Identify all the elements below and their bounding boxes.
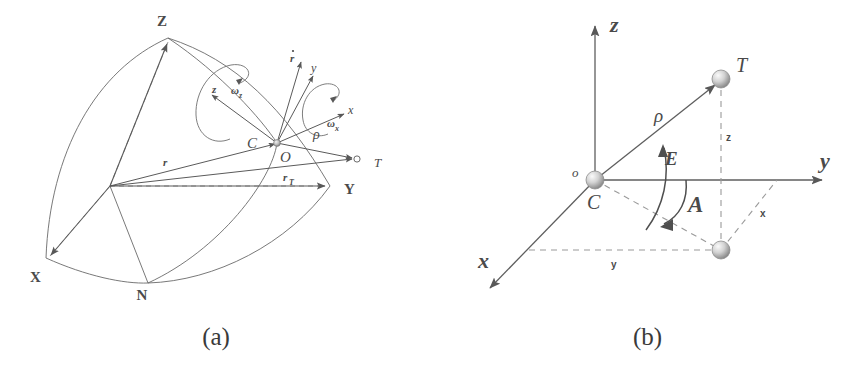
svg-text:r: r: [283, 171, 288, 183]
label-vector-r: r: [163, 156, 168, 168]
omega-x-loop-arrowhead: [330, 96, 337, 103]
svg-text:z: z: [238, 91, 243, 100]
point-O-marker: [274, 140, 281, 147]
label-point-O: O: [280, 149, 291, 165]
vector-rT-line: [110, 159, 352, 186]
axis-Z-arrow: [110, 44, 167, 186]
label-range-rho: ρ: [653, 105, 663, 126]
label-elevation-E: E: [664, 148, 678, 169]
label-component-x: x: [760, 208, 766, 219]
vector-rho-line: [595, 85, 715, 180]
target-sphere-T: [712, 70, 730, 88]
svg-text:ω: ω: [327, 117, 335, 129]
panel-b: z y x o C T ρ E A z x y (b): [432, 0, 863, 369]
panel-a-drawing: Z Y X N C O T r r T ρ z y x r ω z: [0, 0, 432, 369]
angle-A-arrowhead: [660, 219, 673, 231]
svg-text:ω: ω: [231, 84, 239, 96]
label-target-T: T: [736, 54, 749, 76]
label-origin-C: C: [587, 191, 601, 213]
caption-panel-a: (a): [0, 323, 432, 351]
label-axis-x: x: [477, 248, 489, 273]
label-axis-X: X: [30, 269, 41, 285]
dashed-x-component: [721, 180, 777, 250]
label-vector-rT: r T: [283, 171, 295, 187]
body-axis-rdot-line: [277, 62, 301, 143]
label-axis-y: y: [817, 148, 830, 173]
rdot-dot-accent: [292, 50, 294, 52]
svg-text:r: r: [290, 52, 295, 64]
label-body-axis-y: y: [310, 61, 317, 75]
label-axis-Y: Y: [344, 181, 355, 197]
axis-x-line: [490, 180, 595, 288]
label-origin-o: o: [572, 165, 579, 180]
label-axis-z: z: [609, 12, 619, 37]
label-component-y: y: [611, 259, 617, 270]
panel-b-drawing: z y x o C T ρ E A z x y: [432, 0, 863, 369]
point-T-marker: [354, 156, 360, 162]
label-omega-x: ω x: [327, 117, 339, 133]
origin-sphere-C: [586, 171, 604, 189]
body-axis-z-line: [212, 95, 277, 143]
label-component-z: z: [726, 132, 731, 143]
figure-root: Z Y X N C O T r r T ρ z y x r ω z: [0, 0, 863, 369]
label-azimuth-A: A: [686, 192, 703, 217]
panel-a: Z Y X N C O T r r T ρ z y x r ω z: [0, 0, 432, 369]
label-body-axis-z: z: [211, 83, 217, 95]
label-vector-rho: ρ: [312, 127, 320, 142]
ground-projection-sphere: [712, 241, 730, 259]
label-point-C: C: [247, 135, 258, 151]
label-body-axis-x: x: [347, 103, 354, 117]
svg-text:x: x: [334, 124, 339, 133]
caption-panel-b: (b): [432, 323, 863, 351]
label-rdot: r: [290, 50, 295, 64]
label-point-T: T: [374, 155, 382, 170]
label-node-N: N: [137, 287, 148, 303]
angle-A-arc: [664, 180, 686, 224]
axis-X-arrow: [51, 186, 110, 255]
label-axis-Z: Z: [157, 13, 167, 29]
label-omega-z: ω z: [231, 84, 243, 100]
